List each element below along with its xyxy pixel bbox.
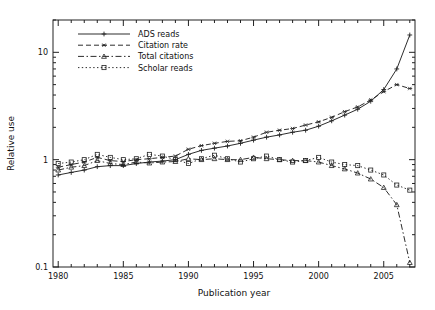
svg-text:1985: 1985 [113, 272, 133, 281]
legend-item-ads-reads: ADS reads [78, 30, 179, 39]
axis-tick-labels: 1980198519901995200020050.1110 [35, 48, 394, 281]
relative-use-line-chart: 1980198519901995200020050.1110 ADS reads… [0, 0, 435, 310]
y-axis-label: Relative use [6, 115, 16, 171]
svg-text:1995: 1995 [243, 272, 263, 281]
legend-label: Citation rate [138, 41, 188, 50]
legend-item-citation-rate: Citation rate [78, 41, 188, 50]
series-citation-rate [56, 83, 412, 169]
axes-frame [53, 20, 415, 267]
svg-text:0.1: 0.1 [35, 263, 48, 272]
svg-text:10: 10 [38, 48, 48, 57]
legend-item-total-citations: Total citations [78, 52, 193, 61]
svg-text:1990: 1990 [178, 272, 198, 281]
x-axis-label: Publication year [198, 288, 271, 298]
legend-label: Scholar reads [138, 64, 193, 73]
legend-label: ADS reads [138, 30, 179, 39]
svg-text:1980: 1980 [48, 272, 68, 281]
svg-text:2000: 2000 [308, 272, 328, 281]
svg-text:1: 1 [43, 156, 48, 165]
chart-legend: ADS readsCitation rateTotal citationsSch… [78, 30, 193, 73]
svg-text:2005: 2005 [374, 272, 394, 281]
legend-label: Total citations [137, 52, 193, 61]
series-total-citations [56, 155, 412, 264]
legend-item-scholar-reads: Scholar reads [78, 64, 193, 73]
chart-figure: 1980198519901995200020050.1110 ADS reads… [0, 0, 435, 310]
axis-ticks [53, 20, 415, 267]
